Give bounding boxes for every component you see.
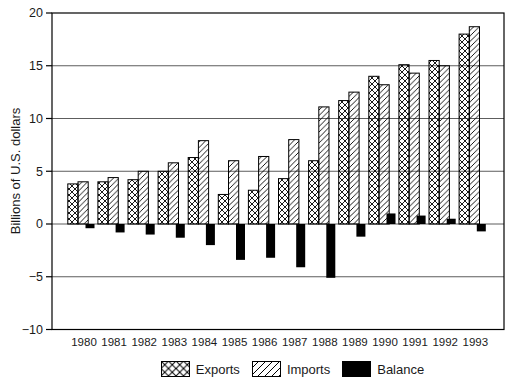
bar-imports-1981 <box>108 178 118 224</box>
bar-exports-1988 <box>309 161 319 224</box>
legend-item-imports: Imports <box>252 361 330 377</box>
bar-imports-1984 <box>198 141 208 224</box>
x-axis-label-1992: 1992 <box>432 336 458 348</box>
exports-crosshatch-swatch-icon <box>161 361 190 377</box>
legend: Exports Imports Balance <box>0 361 511 377</box>
y-axis-title: Billions of U.S. dollars <box>8 108 23 234</box>
bar-imports-1989 <box>349 92 359 224</box>
x-axis-label-1988: 1988 <box>312 336 338 348</box>
bar-balance-1987 <box>296 224 305 267</box>
bar-exports-1981 <box>98 182 108 224</box>
bar-exports-1984 <box>188 158 198 224</box>
balance-solid-swatch-icon <box>342 361 371 377</box>
y-tick-label-20: 20 <box>29 6 43 20</box>
bar-balance-1989 <box>356 224 365 237</box>
y-tick-label-10: 10 <box>29 112 43 126</box>
bar-exports-1985 <box>218 194 228 224</box>
bar-balance-1993 <box>477 224 486 231</box>
bar-exports-1990 <box>369 76 379 224</box>
x-axis-label-1982: 1982 <box>131 336 157 348</box>
bar-balance-1980 <box>86 224 95 228</box>
bar-exports-1991 <box>399 65 409 224</box>
bar-imports-1991 <box>409 73 419 224</box>
x-axis-label-1983: 1983 <box>162 336 188 348</box>
y-tick-label--10: −10 <box>22 323 43 337</box>
legend-label-imports: Imports <box>287 362 330 377</box>
bar-imports-1985 <box>229 161 239 224</box>
bar-imports-1988 <box>319 107 329 224</box>
legend-item-exports: Exports <box>161 361 240 377</box>
bar-exports-1989 <box>339 101 349 224</box>
bar-balance-1982 <box>146 224 155 235</box>
bar-imports-1980 <box>78 182 88 224</box>
bar-imports-1993 <box>469 27 479 224</box>
bar-balance-1991 <box>417 216 426 224</box>
y-tick-label-0: 0 <box>36 217 43 231</box>
x-axis-label-1984: 1984 <box>192 336 218 348</box>
x-axis-label-1989: 1989 <box>342 336 368 348</box>
legend-item-balance: Balance <box>342 361 424 377</box>
legend-label-exports: Exports <box>196 362 240 377</box>
bar-exports-1980 <box>68 184 78 224</box>
x-axis-label-1987: 1987 <box>282 336 308 348</box>
bar-imports-1992 <box>439 66 449 224</box>
bar-balance-1992 <box>447 219 456 224</box>
x-axis-label-1980: 1980 <box>71 336 97 348</box>
bar-exports-1982 <box>128 180 138 224</box>
x-axis-label-1993: 1993 <box>463 336 489 348</box>
bar-imports-1990 <box>379 85 389 224</box>
bar-exports-1992 <box>429 60 439 224</box>
bar-balance-1988 <box>326 224 335 278</box>
x-axis-label-1986: 1986 <box>252 336 278 348</box>
bar-exports-1986 <box>248 190 258 224</box>
bar-imports-1983 <box>168 163 178 224</box>
bar-exports-1987 <box>279 179 289 224</box>
bar-imports-1982 <box>138 171 148 224</box>
bar-balance-1983 <box>176 224 185 238</box>
bar-balance-1986 <box>266 224 275 258</box>
y-tick-label--5: −5 <box>29 270 43 284</box>
bar-balance-1985 <box>236 224 245 260</box>
bar-imports-1987 <box>289 140 299 224</box>
chart-figure: 1980198119821983198419851986198719881989… <box>0 0 511 391</box>
x-axis-label-1991: 1991 <box>402 336 428 348</box>
bar-exports-1993 <box>459 34 469 224</box>
bar-balance-1990 <box>387 213 396 224</box>
y-tick-label-5: 5 <box>36 165 43 179</box>
bar-imports-1986 <box>259 156 269 224</box>
x-axis-label-1990: 1990 <box>372 336 398 348</box>
legend-label-balance: Balance <box>377 362 424 377</box>
bar-balance-1984 <box>206 224 215 245</box>
imports-diagonal-swatch-icon <box>252 361 281 377</box>
trade-bar-chart: 1980198119821983198419851986198719881989… <box>0 0 511 391</box>
y-tick-label-15: 15 <box>29 59 43 73</box>
x-axis-label-1985: 1985 <box>222 336 248 348</box>
x-axis-label-1981: 1981 <box>101 336 127 348</box>
bar-exports-1983 <box>158 171 168 224</box>
bar-balance-1981 <box>116 224 125 232</box>
